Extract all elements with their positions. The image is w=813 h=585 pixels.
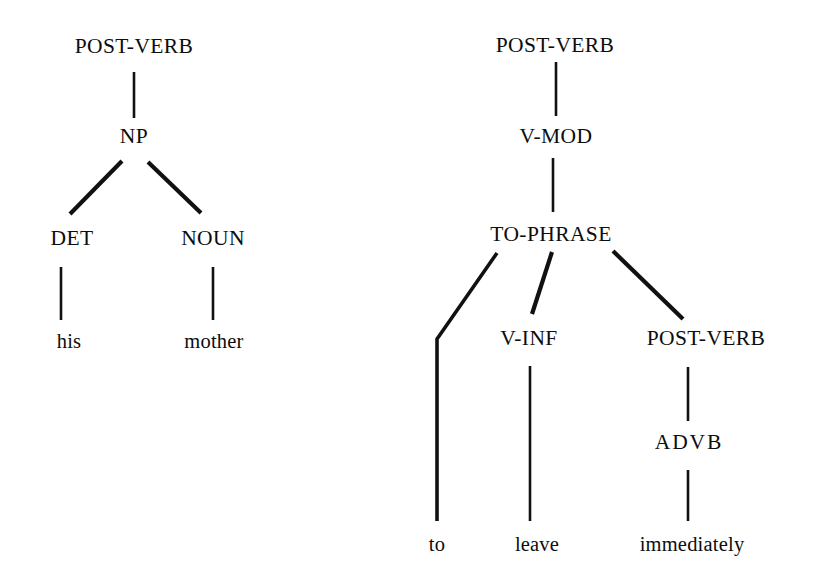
edge-tophrase-vinf bbox=[532, 252, 552, 314]
edge-np-noun bbox=[148, 162, 201, 213]
leaf-to: to bbox=[429, 534, 445, 555]
leaf-immediately: immediately bbox=[640, 534, 745, 555]
node-right-vinf: V-INF bbox=[500, 328, 557, 350]
edge-np-det bbox=[70, 161, 122, 214]
node-left-noun: NOUN bbox=[181, 228, 245, 250]
leaf-leave: leave bbox=[515, 534, 559, 555]
node-right-tophrase: TO-PHRASE bbox=[490, 224, 611, 246]
figure-canvas: POST-VERB NP DET NOUN his mother POST-VE… bbox=[0, 0, 813, 585]
node-left-np: NP bbox=[120, 126, 148, 148]
node-right-postverb-child: POST-VERB bbox=[647, 328, 766, 350]
edge-tophrase-postverb bbox=[613, 251, 683, 319]
leaf-mother: mother bbox=[184, 331, 243, 352]
node-right-vmod: V-MOD bbox=[520, 126, 593, 148]
node-right-postverb: POST-VERB bbox=[496, 35, 615, 57]
tree-edges bbox=[0, 0, 813, 585]
leaf-his: his bbox=[57, 331, 82, 352]
node-left-postverb: POST-VERB bbox=[75, 36, 194, 58]
node-left-det: DET bbox=[51, 228, 94, 250]
node-right-advb: ADVB bbox=[655, 432, 724, 454]
edge-tophrase-to bbox=[437, 253, 497, 521]
